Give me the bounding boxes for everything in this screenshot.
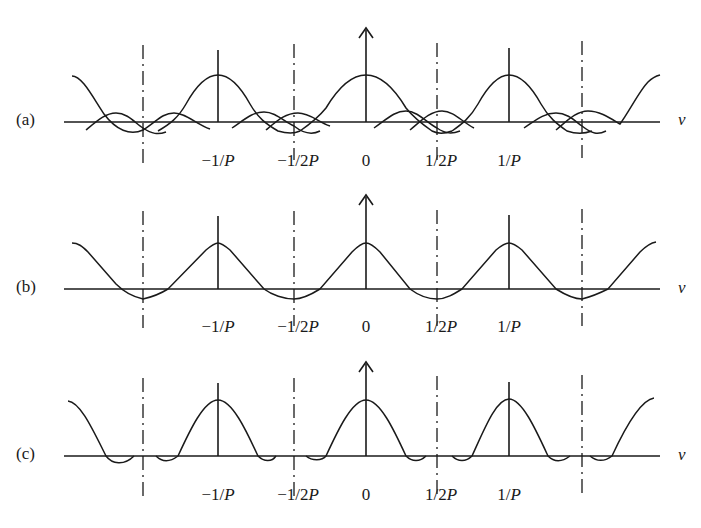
tick-label-1-over-2P: 1/2P — [425, 317, 457, 337]
axis-symbol-nu-b: ν — [678, 278, 686, 298]
panel-a-lobe — [452, 75, 592, 133]
panel-a-lobe — [300, 75, 452, 133]
panel-b-plot — [64, 195, 660, 328]
tick-label-minus-1-over-2P: −1/2P — [277, 151, 319, 171]
tick-label-zero: 0 — [362, 317, 371, 337]
panel-c-waveform — [68, 398, 654, 463]
tick-label-zero: 0 — [362, 485, 371, 505]
panel-a-plot — [64, 28, 660, 163]
tick-label-1-over-2P: 1/2P — [425, 485, 457, 505]
tick-label-1-over-P: 1/P — [497, 151, 521, 171]
tick-label-minus-1-over-P: −1/P — [201, 317, 234, 337]
panel-b-waveform — [72, 242, 656, 299]
axis-symbol-nu-c: ν — [678, 445, 686, 465]
tick-label-minus-1-over-2P: −1/2P — [277, 485, 319, 505]
panel-label-b: (b) — [16, 277, 36, 297]
panel-label-c: (c) — [16, 444, 35, 464]
tick-label-zero: 0 — [362, 151, 371, 171]
tick-label-1-over-P: 1/P — [497, 317, 521, 337]
tick-label-minus-1-over-2P: −1/2P — [277, 317, 319, 337]
panel-a-lobe — [158, 75, 300, 133]
tick-label-1-over-P: 1/P — [497, 485, 521, 505]
tick-label-1-over-2P: 1/2P — [425, 151, 457, 171]
axis-symbol-nu-a: ν — [678, 110, 686, 130]
tick-label-minus-1-over-P: −1/P — [201, 485, 234, 505]
panel-label-a: (a) — [16, 110, 35, 130]
diagram-canvas: .ax { stroke:#1a1a1a; stroke-width:1.6; … — [0, 0, 701, 528]
panel-c-plot — [64, 362, 660, 498]
tick-label-minus-1-over-P: −1/P — [201, 151, 234, 171]
